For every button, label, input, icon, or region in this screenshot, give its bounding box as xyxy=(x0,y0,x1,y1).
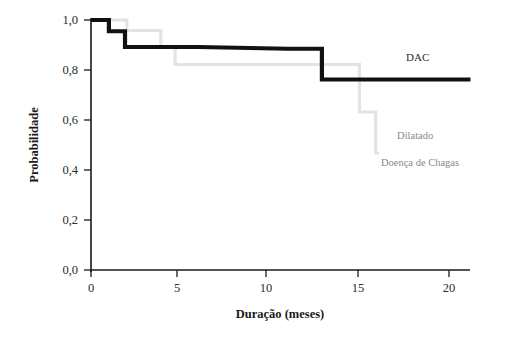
y-tick-label-0-6: 0,6 xyxy=(62,113,78,127)
chart-canvas: 1,0 0,8 0,6 0,4 0,2 0,0 Probabilidade 0 … xyxy=(0,0,510,340)
kaplan-meier-chart: 1,0 0,8 0,6 0,4 0,2 0,0 Probabilidade 0 … xyxy=(0,0,510,340)
y-tick-marks xyxy=(84,20,91,270)
x-tick-labels: 0 5 10 15 20 xyxy=(88,281,455,295)
x-tick-label-15: 15 xyxy=(352,281,365,295)
x-tick-label-0: 0 xyxy=(88,281,94,295)
series-labels: DAC Dilatado Doença de Chagas xyxy=(381,51,459,167)
x-tick-marks xyxy=(91,270,449,277)
y-axis-title: Probabilidade xyxy=(27,107,41,183)
series-label-dilatado: Dilatado xyxy=(397,130,433,141)
y-tick-label-1-0: 1,0 xyxy=(62,13,78,27)
series-label-doenca-de-chagas: Doença de Chagas xyxy=(381,157,459,168)
y-tick-label-0-2: 0,2 xyxy=(62,213,78,227)
x-tick-label-5: 5 xyxy=(174,281,180,295)
y-tick-label-0-4: 0,4 xyxy=(62,163,78,177)
y-tick-labels: 1,0 0,8 0,6 0,4 0,2 0,0 xyxy=(62,13,78,277)
y-tick-label-0-8: 0,8 xyxy=(62,63,78,77)
x-tick-label-20: 20 xyxy=(443,281,456,295)
y-tick-label-0-0: 0,0 xyxy=(62,263,78,277)
curve-dilatado xyxy=(91,20,379,153)
x-tick-label-10: 10 xyxy=(260,281,273,295)
x-axis-group: 0 5 10 15 20 Duração (meses) xyxy=(88,270,470,321)
y-axis-group: 1,0 0,8 0,6 0,4 0,2 0,0 Probabilidade xyxy=(27,13,91,277)
x-axis-title: Duração (meses) xyxy=(236,307,325,321)
series-label-dac: DAC xyxy=(406,51,429,63)
